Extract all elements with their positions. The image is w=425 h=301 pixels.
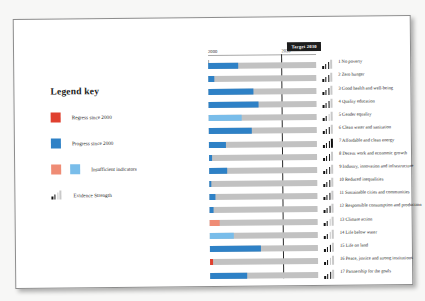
legend-item-regress: Regress since 2000 bbox=[51, 108, 181, 124]
evidence-strength-icon bbox=[323, 165, 334, 174]
legend-swatch-insufficient-progress bbox=[70, 164, 80, 174]
goal-label: 6 Clean water and sanitation bbox=[339, 124, 391, 130]
bar-track bbox=[210, 219, 318, 226]
legend-label-evidence: Evidence Strength bbox=[74, 191, 112, 197]
goal-label: 12 Responsible consumption and productio… bbox=[339, 202, 421, 208]
evidence-strength-icon bbox=[323, 112, 334, 121]
evidence-strength-icon bbox=[324, 243, 335, 252]
bar-fill bbox=[208, 89, 253, 95]
legend-item-progress: Progress since 2000 bbox=[51, 134, 181, 150]
bar-track bbox=[209, 167, 317, 174]
goal-label: 14 Life below water bbox=[340, 229, 377, 234]
bar-track bbox=[209, 154, 317, 161]
legend-swatch-progress bbox=[51, 138, 61, 148]
target-2030-badge: Target 2030 bbox=[287, 42, 320, 51]
axis-tick-label: 2000 bbox=[208, 49, 217, 54]
legend-title: Legend key bbox=[50, 85, 180, 96]
bar-fill bbox=[209, 128, 252, 134]
evidence-strength-icon bbox=[322, 73, 333, 82]
goal-label: 16 Peace, justice and strong institution… bbox=[340, 255, 413, 261]
bar-track bbox=[209, 193, 317, 200]
bar-track bbox=[210, 271, 318, 278]
bar-track bbox=[210, 258, 318, 265]
bar-fill bbox=[209, 168, 227, 174]
bar-track bbox=[208, 62, 316, 69]
evidence-strength-icon bbox=[323, 125, 334, 134]
goal-label: 13 Climate action bbox=[340, 216, 373, 221]
legend-label-regress: Regress since 2000 bbox=[72, 113, 112, 119]
goal-label: 9 Industry, innovation and infrastructur… bbox=[339, 163, 413, 169]
evidence-strength-icon bbox=[324, 204, 335, 213]
goal-label: 2 Zero hunger bbox=[338, 72, 364, 77]
bar-fill bbox=[210, 233, 234, 239]
bar-fill bbox=[208, 76, 215, 82]
goal-label: 7 Affordable and clean energy bbox=[339, 137, 394, 143]
legend-swatch-insufficient-regress bbox=[51, 164, 61, 174]
bar-track bbox=[210, 245, 318, 252]
evidence-strength-icon bbox=[322, 60, 333, 69]
evidence-strength-icon bbox=[322, 99, 333, 108]
goal-label: 4 Quality education bbox=[338, 98, 374, 103]
bar-fill bbox=[208, 63, 238, 69]
bar-fill bbox=[210, 220, 220, 226]
bar-fill bbox=[210, 207, 214, 213]
bar-track bbox=[208, 88, 316, 95]
chart-axis bbox=[208, 54, 316, 56]
bar-track bbox=[208, 75, 316, 82]
evidence-strength-icon bbox=[323, 178, 334, 187]
paper-sheet: Legend key Regress since 2000 Progress s… bbox=[13, 15, 414, 289]
goal-label: 8 Decent work and economic growth bbox=[339, 150, 407, 156]
goal-label: 15 Life on land bbox=[340, 242, 368, 247]
bar-fill bbox=[209, 102, 259, 108]
evidence-strength-icon bbox=[51, 190, 62, 199]
legend-item-evidence: Evidence Strength bbox=[51, 186, 181, 202]
goal-label: 5 Gender equality bbox=[339, 111, 372, 116]
bar-fill bbox=[209, 155, 212, 161]
evidence-strength-icon bbox=[323, 191, 334, 200]
evidence-strength-icon bbox=[324, 256, 335, 265]
bar-fill bbox=[210, 246, 261, 252]
goal-label: 11 Sustainable cities and communities bbox=[339, 189, 409, 195]
evidence-strength-icon bbox=[323, 151, 334, 160]
goal-label: 1 No poverty bbox=[338, 59, 362, 64]
bar-track bbox=[209, 101, 317, 108]
bar-fill bbox=[209, 194, 216, 200]
bar-fill bbox=[209, 115, 243, 121]
legend-panel: Legend key Regress since 2000 Progress s… bbox=[50, 85, 181, 213]
legend-label-insufficient: Insufficient indicators bbox=[91, 165, 137, 171]
bar-track bbox=[209, 141, 317, 148]
evidence-strength-icon bbox=[322, 86, 333, 95]
sdg-progress-chart: 20002020 Target 2030 1 No poverty2 Zero … bbox=[200, 42, 410, 278]
bar-track bbox=[210, 232, 318, 239]
bar-fill bbox=[210, 272, 247, 278]
legend-label-progress: Progress since 2000 bbox=[72, 139, 114, 145]
evidence-strength-icon bbox=[324, 217, 335, 226]
goal-label: 3 Good health and well-being bbox=[338, 85, 393, 91]
bar-fill bbox=[209, 181, 211, 187]
target-marker-layer: Target 2030 bbox=[200, 42, 408, 44]
bar-track bbox=[209, 127, 317, 134]
evidence-strength-icon bbox=[324, 269, 335, 278]
legend-swatch-regress bbox=[51, 112, 61, 122]
legend-item-insufficient: Insufficient indicators bbox=[51, 160, 181, 176]
goal-label: 17 Partnership for the goals bbox=[340, 268, 391, 273]
goal-label: 10 Reduced inequalities bbox=[339, 177, 383, 182]
screenshot-page: Legend key Regress since 2000 Progress s… bbox=[0, 0, 425, 301]
bar-fill bbox=[209, 141, 226, 147]
bar-fill bbox=[210, 259, 213, 265]
bar-track bbox=[209, 180, 317, 187]
evidence-strength-icon bbox=[324, 230, 335, 239]
evidence-strength-icon bbox=[323, 138, 334, 147]
bar-track bbox=[210, 206, 318, 213]
chart-row: 17 Partnership for the goals bbox=[202, 268, 410, 283]
chart-rows: 1 No poverty2 Zero hunger3 Good health a… bbox=[200, 58, 410, 283]
bar-track bbox=[209, 114, 317, 121]
